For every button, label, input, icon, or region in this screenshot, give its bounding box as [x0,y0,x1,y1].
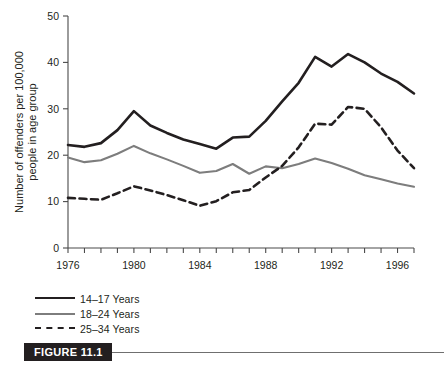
legend-label-25-34: 25–34 Years [77,323,140,335]
y-tick-label: 30 [47,103,59,115]
x-tick-label: 1980 [122,259,146,271]
x-tick-label: 1984 [188,259,212,271]
x-tick-label: 1988 [254,259,278,271]
y-axis-title: people in age group [26,83,38,180]
chart-legend: 14–17 Years 18–24 Years 25–34 Years [33,291,253,336]
caption-rule-divider [112,352,444,353]
line-chart-svg: 01020304050197619801984198819921996Numbe… [0,0,448,282]
legend-item-25-34: 25–34 Years [33,321,253,336]
data-series-layer [68,54,414,206]
x-tick-label: 1996 [386,259,410,271]
y-tick-label: 10 [47,195,59,207]
legend-label-18-24: 18–24 Years [77,308,140,320]
x-tick-label: 1992 [320,259,344,271]
legend-label-14-17: 14–17 Years [77,293,140,305]
legend-swatch-solid-gray-icon [33,308,77,320]
legend-item-18-24: 18–24 Years [33,306,253,321]
y-tick-label: 0 [53,242,59,254]
axis-label-layer: 01020304050197619801984198819921996Numbe… [13,10,409,271]
series-line [68,146,414,187]
y-tick-label: 50 [47,10,59,22]
legend-item-14-17: 14–17 Years [33,291,253,306]
axis-layer [63,16,414,253]
y-tick-label: 20 [47,149,59,161]
y-tick-label: 40 [47,56,59,68]
series-line [68,107,414,206]
figure-caption-label: FIGURE 11.1 [24,343,112,361]
figure-caption-bar: FIGURE 11.1 [24,343,444,361]
legend-swatch-dashed-black-icon [33,323,77,335]
x-tick-label: 1976 [56,259,80,271]
chart-plot-region: 01020304050197619801984198819921996Numbe… [0,0,448,282]
figure-container: 01020304050197619801984198819921996Numbe… [0,0,448,366]
legend-swatch-solid-black-icon [33,293,77,305]
y-axis-title: Number of offenders per 100,000 [13,51,25,213]
series-line [68,54,414,149]
